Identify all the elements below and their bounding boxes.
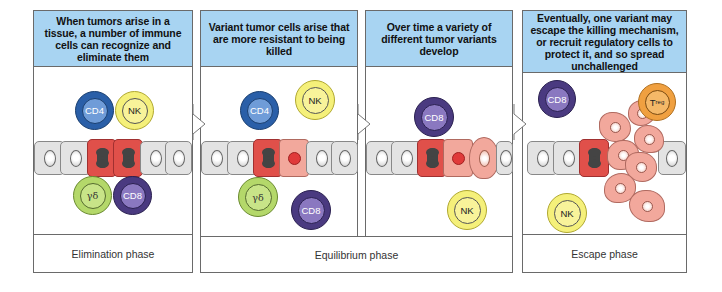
nk-cell: NK [295,80,335,120]
arrow-right-icon [356,104,372,140]
cd4-t-cell: CD4 [75,91,114,130]
treg-label: Treg [645,90,670,115]
cd4-label: CD4 [82,98,108,124]
nk-cell: NK [115,91,154,130]
cd8-label: CD8 [421,104,448,131]
cd8-t-cell: CD8 [113,176,152,215]
escaped-tumor-cell [629,190,665,222]
nk-label: NK [302,87,329,114]
cd8-t-cell: CD8 [414,97,454,137]
phase-label-text: Equilibrium phase [315,249,398,261]
arrow-right-icon [512,104,528,140]
cd4-label: CD4 [247,98,273,124]
cd8-t-cell: CD8 [538,80,576,118]
panel-header: Eventually, one variant may escape the k… [523,11,686,73]
nk-cell: NK [547,193,587,233]
treg-cell: Treg [638,83,676,121]
nk-cell: NK [447,190,487,230]
panel-header: Variant tumor cells arise that are more … [201,11,357,67]
panel-header: Over time a variety of different tumor v… [366,11,512,67]
cd8-label: CD8 [120,183,146,209]
arrow-right-icon [191,104,207,140]
cd8-label: CD8 [298,197,325,224]
nk-label: NK [554,200,581,227]
cd8-label: CD8 [545,87,570,112]
cd8-t-cell: CD8 [291,190,331,230]
gamma-delta-t-cell: γδ [73,176,112,215]
escaped-tumor-cell [634,125,664,153]
cd4-t-cell: CD4 [240,91,279,130]
escaped-tumor-cell [599,112,631,142]
normal-cell [496,141,513,175]
nk-label: NK [122,98,148,124]
gamma-delta-t-cell: γδ [238,177,278,217]
phase-label-escape: Escape phase [523,234,686,272]
gd-label: γδ [245,184,272,211]
tumor-cell [579,139,609,177]
variant-tumor-cell [469,137,499,179]
panel-header: When tumors arise in a tissue, a number … [34,11,192,67]
tumor-cell [113,139,143,177]
phase-label-equilibrium: Equilibrium phase [200,236,513,273]
treg-label-sub: reg [656,99,665,105]
phase-label-elimination: Elimination phase [34,234,192,272]
gd-label: γδ [80,183,106,209]
normal-cell [331,141,358,175]
normal-cell [165,141,192,175]
variant-tumor-cell [279,139,309,177]
nk-label: NK [454,197,481,224]
